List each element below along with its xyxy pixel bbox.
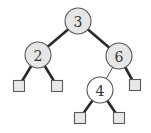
leaf-node [114, 113, 125, 124]
binary-tree-diagram: 3264 [0, 0, 151, 133]
tree-node-6: 6 [106, 43, 132, 69]
node-label: 4 [96, 83, 105, 99]
node-label: 2 [34, 48, 43, 64]
tree-nodes: 3264 [25, 8, 132, 103]
tree-node-2: 2 [25, 42, 51, 68]
leaf-node [52, 81, 63, 92]
tree-edges [19, 21, 135, 118]
leaf-node [14, 81, 25, 92]
node-label: 3 [74, 14, 83, 30]
tree-leaves [14, 80, 141, 124]
node-label: 6 [115, 49, 124, 65]
tree-node-3: 3 [65, 8, 91, 34]
tree-node-4: 4 [87, 77, 113, 103]
leaf-node [130, 80, 141, 91]
leaf-node [75, 113, 86, 124]
